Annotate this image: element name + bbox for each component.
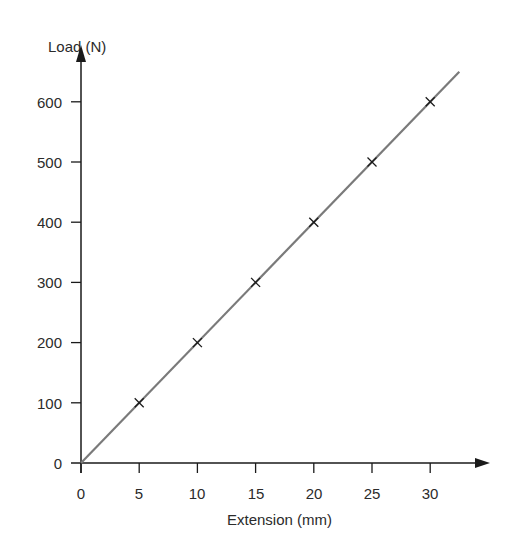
x-marker-icon bbox=[368, 158, 377, 167]
data-series bbox=[81, 72, 459, 463]
plot-area bbox=[0, 0, 510, 552]
x-marker-icon bbox=[251, 278, 260, 287]
x-marker-icon bbox=[135, 398, 144, 407]
y-axis-arrow-icon bbox=[76, 45, 86, 62]
x-marker-icon bbox=[426, 97, 435, 106]
x-marker-icon bbox=[193, 338, 202, 347]
x-axis-arrow-icon bbox=[475, 458, 490, 468]
x-marker-icon bbox=[309, 218, 318, 227]
